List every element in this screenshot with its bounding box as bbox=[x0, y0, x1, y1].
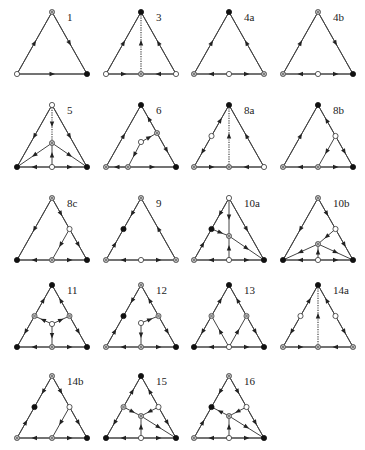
flow-arrow-icon bbox=[208, 39, 215, 46]
flow-arrow-icon bbox=[332, 40, 339, 47]
flow-arrow-icon bbox=[209, 72, 215, 76]
diagram-label: 3 bbox=[156, 11, 162, 23]
flow-arrow-icon bbox=[316, 313, 320, 319]
flow-arrow-icon bbox=[234, 297, 241, 304]
flow-arrow-icon bbox=[323, 297, 330, 304]
flow-arrow-icon bbox=[297, 249, 304, 255]
flow-arrow-icon bbox=[306, 297, 313, 304]
flow-arrow-icon bbox=[121, 436, 127, 440]
flow-arrow-icon bbox=[66, 152, 73, 159]
flow-arrow-icon bbox=[288, 328, 295, 335]
black-equilibrium-node bbox=[84, 164, 89, 169]
flow-arrow-icon bbox=[252, 328, 259, 335]
flow-arrow-icon bbox=[217, 388, 224, 395]
flow-arrow-icon bbox=[341, 328, 348, 335]
flow-arrow-icon bbox=[75, 419, 82, 426]
flow-arrow-icon bbox=[66, 133, 73, 140]
flow-arrow-icon bbox=[298, 165, 304, 169]
flow-arrow-icon bbox=[341, 148, 348, 155]
flow-arrow-icon bbox=[298, 345, 304, 349]
diagram-15: 15 bbox=[103, 373, 178, 440]
flow-arrow-icon bbox=[163, 147, 170, 154]
flow-arrow-icon bbox=[155, 39, 162, 46]
flow-arrow-icon bbox=[139, 333, 143, 339]
flow-arrow-icon bbox=[131, 151, 137, 158]
diagram-5: 5 bbox=[14, 102, 89, 169]
white-equilibrium-node bbox=[138, 139, 143, 144]
black-equilibrium-node bbox=[121, 226, 126, 231]
phase-portrait-figure: 134a4b568a8b8c910a10b11121314a14b1516 bbox=[0, 0, 365, 450]
diagram-10a: 10a bbox=[191, 195, 266, 262]
diagram-label: 9 bbox=[156, 197, 162, 209]
flow-arrow-icon bbox=[58, 210, 65, 217]
diagram-9: 9 bbox=[103, 195, 178, 262]
white-equilibrium-node bbox=[138, 257, 143, 262]
black-equilibrium-node bbox=[226, 102, 231, 107]
flow-arrow-icon bbox=[200, 241, 207, 248]
flow-arrow-icon bbox=[244, 165, 250, 169]
flow-arrow-icon bbox=[129, 210, 136, 217]
flow-arrow-icon bbox=[50, 333, 54, 339]
diagram-1: 1 bbox=[14, 9, 89, 76]
flow-arrow-icon bbox=[146, 134, 153, 141]
black-equilibrium-node bbox=[14, 257, 19, 262]
white-equilibrium-node bbox=[138, 435, 143, 440]
flow-arrow-icon bbox=[217, 328, 224, 335]
flow-arrow-icon bbox=[67, 345, 73, 349]
black-equilibrium-node bbox=[350, 71, 355, 76]
diagram-label: 14a bbox=[333, 284, 349, 296]
flow-arrow-icon bbox=[227, 133, 231, 139]
diagram-label: 12 bbox=[156, 284, 167, 296]
white-equilibrium-node bbox=[226, 257, 231, 262]
flow-arrow-icon bbox=[298, 258, 304, 262]
flow-arrow-icon bbox=[40, 297, 47, 304]
flow-arrow-icon bbox=[217, 297, 224, 304]
flow-arrow-icon bbox=[217, 230, 224, 236]
black-equilibrium-node bbox=[103, 435, 108, 440]
black-equilibrium-node bbox=[261, 344, 266, 349]
flow-arrow-icon bbox=[316, 249, 320, 255]
diagram-label: 14b bbox=[67, 375, 84, 387]
flow-arrow-icon bbox=[57, 419, 64, 426]
flow-arrow-icon bbox=[244, 258, 250, 262]
white-equilibrium-node bbox=[333, 313, 338, 318]
diagram-label: 8b bbox=[333, 104, 345, 116]
black-equilibrium-node bbox=[84, 435, 89, 440]
flow-arrow-icon bbox=[298, 72, 304, 76]
diagram-label: 11 bbox=[67, 284, 78, 296]
white-equilibrium-node bbox=[103, 71, 108, 76]
flow-arrow-icon bbox=[200, 419, 207, 426]
flow-arrow-icon bbox=[244, 72, 250, 76]
diagram-label: 4a bbox=[244, 11, 255, 23]
diagram-6: 6 bbox=[103, 102, 178, 169]
flow-arrow-icon bbox=[67, 165, 73, 169]
black-equilibrium-node bbox=[209, 226, 214, 231]
flow-arrow-icon bbox=[217, 210, 224, 217]
diagram-label: 6 bbox=[156, 104, 162, 116]
white-equilibrium-node bbox=[315, 257, 320, 262]
white-equilibrium-node bbox=[173, 71, 178, 76]
diagram-label: 8c bbox=[67, 197, 78, 209]
flow-arrow-icon bbox=[333, 72, 339, 76]
diagram-label: 8a bbox=[244, 104, 255, 116]
flow-arrow-icon bbox=[155, 424, 162, 431]
diagram-4b: 4b bbox=[280, 9, 355, 76]
black-equilibrium-node bbox=[226, 9, 231, 14]
flow-arrow-icon bbox=[31, 39, 38, 46]
flow-arrow-icon bbox=[234, 408, 241, 414]
flow-arrow-icon bbox=[139, 424, 143, 430]
flow-arrow-icon bbox=[146, 388, 153, 395]
diagram-12: 12 bbox=[103, 282, 178, 349]
white-equilibrium-node bbox=[49, 321, 54, 326]
black-equilibrium-node bbox=[261, 257, 266, 262]
white-equilibrium-node bbox=[333, 226, 338, 231]
flow-arrow-icon bbox=[297, 226, 304, 233]
flow-arrow-icon bbox=[209, 258, 215, 262]
diagram-3: 3 bbox=[103, 9, 178, 76]
white-equilibrium-node bbox=[49, 102, 54, 107]
diagram-4a: 4a bbox=[191, 9, 266, 76]
diagram-label: 15 bbox=[156, 375, 168, 387]
flow-arrow-icon bbox=[323, 148, 330, 155]
flow-arrow-icon bbox=[297, 39, 304, 46]
diagram-8a: 8a bbox=[191, 102, 266, 169]
